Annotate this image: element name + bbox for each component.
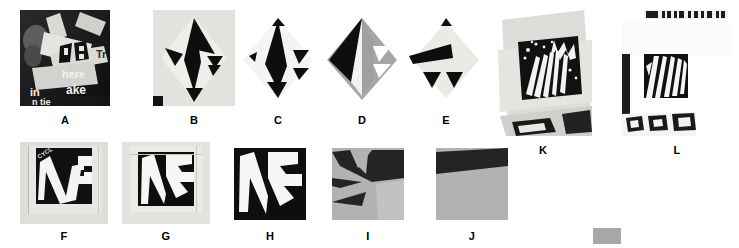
svg-text:Tr: Tr: [96, 48, 107, 60]
panel-k: [492, 6, 594, 136]
panel-h-artwork: [234, 148, 306, 220]
panel-h: [234, 148, 306, 220]
panel-j: [436, 148, 508, 220]
panel-d: [321, 10, 403, 106]
svg-text:ake: ake: [66, 83, 86, 97]
panel-b: [153, 10, 235, 106]
panel-l: [622, 6, 732, 136]
panel-c: [237, 10, 319, 106]
figure-canvas: here ake in Tr n tie A B: [0, 0, 739, 248]
panel-label-h: H: [234, 230, 306, 242]
panel-label-a: A: [20, 114, 110, 126]
panel-k-artwork: [492, 6, 594, 136]
panel-d-artwork: [321, 10, 403, 106]
panel-label-l: L: [622, 144, 732, 156]
panel-label-d: D: [321, 114, 403, 126]
panel-label-b: B: [153, 114, 235, 126]
panel-label-g: G: [122, 230, 210, 242]
panel-label-i: I: [332, 230, 404, 242]
panel-label-j: J: [436, 230, 508, 242]
panel-f-artwork: CYCL: [20, 142, 108, 224]
svg-text:n tie: n tie: [32, 97, 51, 106]
panel-a: here ake in Tr n tie: [20, 10, 110, 106]
panel-f: CYCL: [20, 142, 108, 224]
panel-e: [405, 10, 487, 106]
panel-label-k: K: [492, 144, 594, 156]
panel-b-artwork: [153, 10, 235, 106]
panel-g-artwork: [122, 142, 210, 224]
panel-g: [122, 142, 210, 224]
panel-i-artwork: [332, 148, 404, 220]
panel-j-artwork: [436, 148, 508, 220]
panel-label-e: E: [405, 114, 487, 126]
svg-text:here: here: [62, 68, 85, 80]
panel-c-artwork: [237, 10, 319, 106]
panel-i: [332, 148, 404, 220]
panel-e-artwork: [405, 10, 487, 106]
panel-a-artwork: here ake in Tr n tie: [20, 10, 110, 106]
gray-swatch: [593, 228, 621, 244]
panel-label-f: F: [20, 230, 108, 242]
panel-l-artwork: [622, 6, 732, 136]
panel-label-c: C: [237, 114, 319, 126]
